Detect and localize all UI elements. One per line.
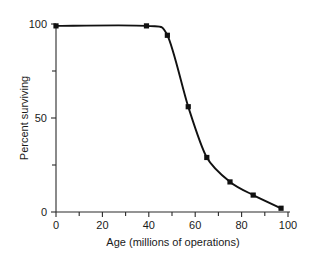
y-tick-label: 0 xyxy=(41,206,47,218)
y-axis-title: Percent surviving xyxy=(18,76,30,160)
x-tick-label: 20 xyxy=(96,219,108,231)
x-tick-label: 60 xyxy=(189,219,201,231)
y-axis-major-ticks xyxy=(51,24,56,212)
x-tick-label: 0 xyxy=(53,219,59,231)
data-marker xyxy=(278,206,283,211)
x-axis-title: Age (millions of operations) xyxy=(106,236,239,248)
x-tick-label: 100 xyxy=(279,219,297,231)
y-axis-tick-labels: 050100 xyxy=(29,18,47,218)
data-marker xyxy=(53,23,58,28)
y-tick-label: 100 xyxy=(29,18,47,30)
x-tick-label: 40 xyxy=(143,219,155,231)
data-marker xyxy=(251,192,256,197)
x-tick-label: 80 xyxy=(235,219,247,231)
chart-canvas: 020406080100 050100 Age (millions of ope… xyxy=(0,0,310,260)
data-marker xyxy=(144,23,149,28)
x-axis-minor-ticks xyxy=(79,212,265,216)
survivorship-curve xyxy=(56,25,281,208)
data-marker xyxy=(165,33,170,38)
survivorship-chart-figure: 020406080100 050100 Age (millions of ope… xyxy=(0,0,310,260)
data-marker xyxy=(204,155,209,160)
x-axis-tick-labels: 020406080100 xyxy=(53,219,297,231)
data-marker xyxy=(186,104,191,109)
y-tick-label: 50 xyxy=(35,112,47,124)
data-marker xyxy=(227,179,232,184)
data-point-markers xyxy=(53,23,283,211)
